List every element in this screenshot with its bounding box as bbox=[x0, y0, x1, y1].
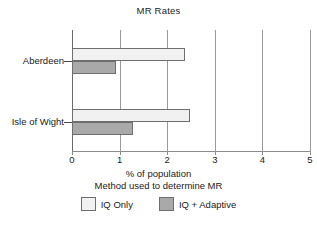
category-axis-labels: Aberdeen Isle of Wight bbox=[0, 30, 64, 152]
x-tick-label-0: 0 bbox=[62, 154, 82, 165]
bar bbox=[72, 109, 190, 122]
x-tick-label-2: 2 bbox=[157, 154, 177, 165]
bar bbox=[72, 48, 185, 61]
legend-swatch-iq-only bbox=[81, 197, 96, 211]
legend-entry-iq-adaptive: IQ + Adaptive bbox=[159, 197, 236, 211]
legend-label-iq-only: IQ Only bbox=[101, 199, 133, 210]
x-tick-label-5: 5 bbox=[300, 154, 317, 165]
chart-legend: IQ Only IQ + Adaptive bbox=[0, 197, 317, 211]
legend-entry-iq-only: IQ Only bbox=[81, 197, 133, 211]
gridline-4 bbox=[262, 30, 263, 152]
bar bbox=[72, 122, 133, 135]
plot-area bbox=[72, 30, 310, 152]
x-tick-label-3: 3 bbox=[205, 154, 225, 165]
x-axis-line bbox=[72, 151, 311, 152]
category-label-aberdeen: Aberdeen bbox=[23, 55, 64, 66]
gridline-5 bbox=[310, 30, 311, 152]
category-tick bbox=[64, 61, 72, 62]
legend-swatch-iq-adaptive bbox=[159, 197, 174, 211]
category-tick bbox=[64, 122, 72, 123]
x-tick-label-4: 4 bbox=[252, 154, 272, 165]
x-axis-label-secondary: Method used to determine MR bbox=[0, 180, 317, 191]
chart-figure: MR Rates Aberdeen Isle of Wight 012345 %… bbox=[0, 0, 317, 225]
bar bbox=[72, 61, 116, 74]
x-axis-label-primary: % of population bbox=[0, 168, 317, 179]
chart-title: MR Rates bbox=[0, 5, 317, 16]
gridline-3 bbox=[215, 30, 216, 152]
x-tick-label-1: 1 bbox=[110, 154, 130, 165]
category-label-isle-of-wight: Isle of Wight bbox=[12, 116, 64, 127]
legend-label-iq-adaptive: IQ + Adaptive bbox=[179, 199, 236, 210]
